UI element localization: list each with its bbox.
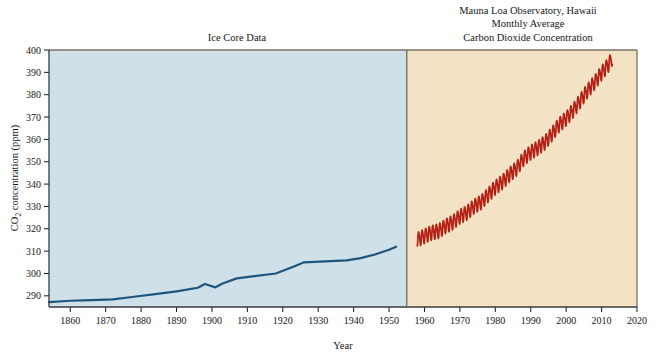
right-panel-title-line1: Mauna Loa Observatory, Hawaii xyxy=(459,5,597,16)
x-axis-label: Year xyxy=(333,340,353,351)
chart-canvas: Ice Core Data Mauna Loa Observatory, Haw… xyxy=(0,0,662,354)
x-tick-label: 1890 xyxy=(167,315,187,326)
right-panel-title-line2: Monthly Average xyxy=(492,18,565,29)
x-tick-label: 1900 xyxy=(202,315,222,326)
x-tick-label: 2000 xyxy=(556,315,576,326)
x-tick-label: 1940 xyxy=(344,315,364,326)
left-panel-background xyxy=(49,50,407,307)
x-axis-tick-labels: 1860187018801890190019101920193019401950… xyxy=(60,315,647,326)
right-panel-background xyxy=(407,50,637,307)
y-tick-label: 320 xyxy=(26,223,41,234)
y-axis-label-main: CO xyxy=(9,216,20,231)
y-tick-label: 390 xyxy=(26,67,41,78)
y-tick-label: 340 xyxy=(26,179,41,190)
y-tick-label: 300 xyxy=(26,268,41,279)
y-tick-label: 310 xyxy=(26,246,41,257)
y-tick-label: 370 xyxy=(26,112,41,123)
x-tick-label: 2020 xyxy=(627,315,647,326)
y-axis-label-rest: concentration (ppm) xyxy=(9,124,21,213)
x-tick-label: 1870 xyxy=(96,315,116,326)
y-tick-label: 350 xyxy=(26,156,41,167)
y-tick-label: 400 xyxy=(26,45,41,56)
right-panel-title-line3: Carbon Dioxide Concentration xyxy=(463,32,593,43)
y-tick-label: 360 xyxy=(26,134,41,145)
x-tick-label: 1910 xyxy=(237,315,257,326)
x-tick-label: 1920 xyxy=(273,315,293,326)
x-tick-label: 1990 xyxy=(521,315,541,326)
x-tick-label: 1980 xyxy=(485,315,505,326)
x-tick-label: 1860 xyxy=(60,315,80,326)
y-tick-label: 380 xyxy=(26,89,41,100)
y-tick-label: 330 xyxy=(26,201,41,212)
x-tick-label: 1960 xyxy=(414,315,434,326)
x-tick-label: 1880 xyxy=(131,315,151,326)
x-tick-label: 2010 xyxy=(592,315,612,326)
co2-chart-figure: Ice Core Data Mauna Loa Observatory, Haw… xyxy=(0,0,662,354)
y-tick-label: 290 xyxy=(26,290,41,301)
x-tick-label: 1930 xyxy=(308,315,328,326)
x-tick-label: 1970 xyxy=(450,315,470,326)
x-tick-label: 1950 xyxy=(379,315,399,326)
left-panel-title: Ice Core Data xyxy=(208,32,267,43)
